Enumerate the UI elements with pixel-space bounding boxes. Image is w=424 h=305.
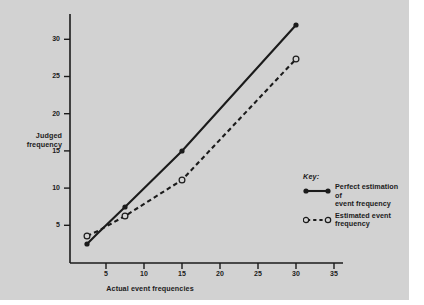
line-chart-plot	[0, 0, 409, 300]
figure-panel: 5 10 15 20 25 30 5 10 15 20 25 30 35 Jud…	[0, 0, 409, 300]
y-tick-label: 5	[44, 221, 60, 228]
series-perfect-estimation-markers	[84, 22, 298, 246]
y-tick-label: 20	[44, 110, 60, 117]
legend-item-estimated-event: Estimated event frequency	[303, 212, 407, 229]
y-axis-title-line1: Judged	[14, 131, 62, 140]
x-tick-label: 30	[286, 270, 306, 277]
x-axis-ticks	[106, 263, 334, 269]
x-tick-label: 20	[210, 270, 230, 277]
x-tick-label: 5	[96, 270, 116, 277]
x-tick-label: 25	[248, 270, 268, 277]
legend-title: Key:	[303, 172, 407, 181]
legend-item-perfect-estimation: Perfect estimation of event frequency	[303, 183, 407, 209]
legend-label-perfect-estimation: Perfect estimation of event frequency	[335, 183, 407, 209]
y-axis-title: Judged frequency	[14, 131, 62, 149]
chart-legend: Key: Perfect estimation of event frequen…	[303, 172, 407, 232]
x-tick-label: 10	[134, 270, 154, 277]
y-tick-label: 25	[44, 72, 60, 79]
x-tick-label: 35	[324, 270, 344, 277]
legend-label-line2: frequency	[335, 220, 391, 229]
x-axis-title: Actual event frequencies	[0, 284, 300, 293]
x-tick-label: 15	[172, 270, 192, 277]
legend-label-line2: event frequency	[335, 200, 407, 209]
legend-marker-dashed-line-icon	[303, 212, 335, 223]
legend-label-line1: Perfect estimation of	[335, 183, 407, 200]
legend-label-estimated-event: Estimated event frequency	[335, 212, 391, 229]
legend-marker-solid-line-icon	[303, 183, 335, 194]
series-estimated-event-frequency-line	[87, 59, 296, 236]
y-tick-label: 10	[44, 184, 60, 191]
y-axis-title-line2: frequency	[14, 140, 62, 149]
series-estimated-event-frequency-markers	[84, 56, 299, 239]
series-perfect-estimation-line	[87, 25, 296, 244]
y-tick-label: 30	[44, 35, 60, 42]
y-axis-ticks	[64, 39, 70, 225]
